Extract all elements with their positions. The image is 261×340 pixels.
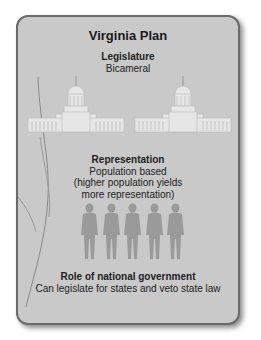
- representation-detail-1: Population based: [18, 166, 238, 178]
- person-icon: [123, 203, 142, 261]
- legislature-detail: Bicameral: [18, 63, 238, 75]
- legislature-heading: Legislature: [18, 51, 238, 63]
- representation-heading: Representation: [18, 154, 238, 166]
- person-icon: [166, 203, 185, 261]
- card-title: Virginia Plan: [18, 28, 238, 43]
- person-icon: [145, 203, 164, 261]
- representation-section: Representation Population based (higher …: [18, 154, 238, 200]
- person-icon: [102, 203, 121, 261]
- role-detail: Can legislate for states and veto state …: [18, 283, 238, 295]
- population-figures: [80, 203, 185, 261]
- capitol-building-icon: [133, 74, 233, 134]
- role-heading: Role of national government: [18, 271, 238, 283]
- capitol-building-icon: [26, 74, 126, 134]
- virginia-plan-card: Virginia Plan Legislature Bicameral: [16, 15, 240, 325]
- legislature-section: Legislature Bicameral: [18, 51, 238, 74]
- representation-detail-2: (higher population yields: [18, 177, 238, 189]
- national-government-role-section: Role of national government Can legislat…: [18, 271, 238, 294]
- person-icon: [80, 203, 99, 261]
- representation-detail-3: more representation): [18, 189, 238, 201]
